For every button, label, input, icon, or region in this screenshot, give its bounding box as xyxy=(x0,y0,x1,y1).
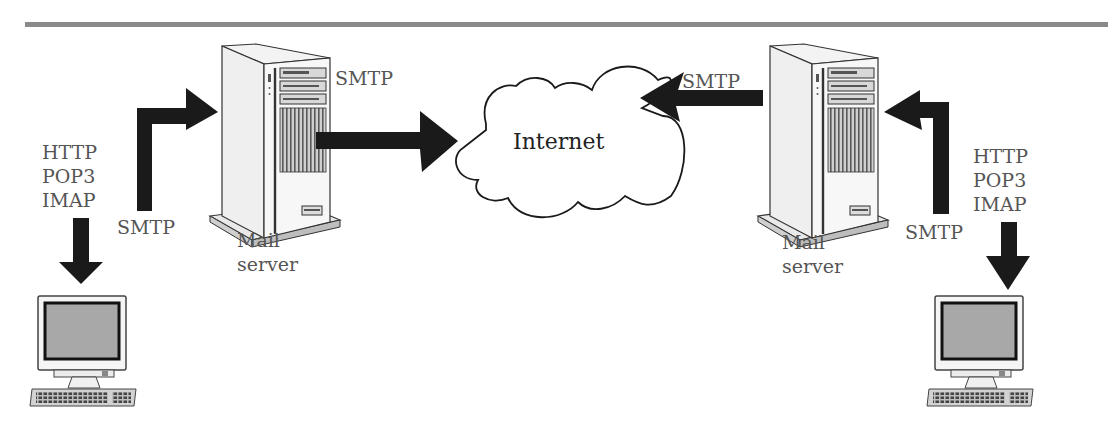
left-smtp-submit-label: SMTP xyxy=(117,215,175,239)
right-smtp-relay-label: SMTP xyxy=(682,69,740,93)
internet-label: Internet xyxy=(513,130,604,154)
left-client-protocols: HTTP POP3 IMAP xyxy=(42,140,97,212)
top-rule xyxy=(25,22,1108,27)
left-smtp-relay-label: SMTP xyxy=(335,66,393,90)
left-relay-arrow xyxy=(316,111,458,172)
right-pc-icon xyxy=(927,296,1033,406)
left-pc-icon xyxy=(30,296,136,406)
protocol-label: HTTP xyxy=(42,140,97,164)
right-smtp-submit-label: SMTP xyxy=(905,220,963,244)
protocol-label: IMAP xyxy=(973,192,1028,216)
protocol-label: IMAP xyxy=(42,188,97,212)
right-mail-server-label: Mail server xyxy=(782,230,843,278)
right-retrieve-arrow xyxy=(986,222,1030,290)
server-label-line: Mail xyxy=(782,230,843,254)
protocol-label: POP3 xyxy=(42,164,97,188)
left-submit-arrow xyxy=(137,88,218,211)
right-client-protocols: HTTP POP3 IMAP xyxy=(973,144,1028,216)
right-mail-server-icon xyxy=(758,44,888,247)
server-label-line: server xyxy=(237,252,298,276)
right-submit-arrow xyxy=(884,90,949,214)
server-label-line: server xyxy=(782,254,843,278)
protocol-label: HTTP xyxy=(973,144,1028,168)
protocol-label: POP3 xyxy=(973,168,1028,192)
left-mail-server-label: Mail server xyxy=(237,228,298,276)
server-label-line: Mail xyxy=(237,228,298,252)
left-retrieve-arrow xyxy=(59,218,103,284)
